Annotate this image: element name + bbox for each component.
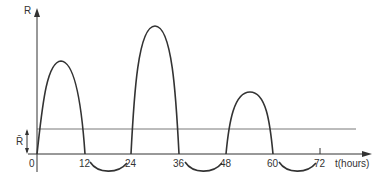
night-cycle-2 [185,162,222,171]
day-cycle-2 [131,26,179,154]
night-cycle-1 [90,162,127,171]
x-axis-arrow-icon [362,151,372,157]
y-axis-label: R [24,5,31,16]
tick-label-0: 0 [29,158,35,169]
mean-arrow-down-icon [25,148,29,154]
day-cycle-1 [37,61,85,154]
tick-label-12: 12 [79,158,91,169]
day-cycle-3 [226,92,273,154]
night-cycle-3 [279,162,316,171]
rate-cycle-diagram: R t(hours) 0 12 24 36 48 60 72 R̄ [0,0,386,179]
tick-label-36: 36 [173,158,185,169]
y-axis-arrow-icon [34,8,40,17]
x-axis-label: t(hours) [335,158,369,169]
mean-arrow-up-icon [25,129,29,135]
mean-label: R̄ [16,135,23,147]
tick-label-60: 60 [267,158,279,169]
